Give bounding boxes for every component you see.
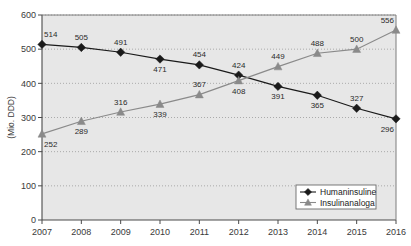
data-label: 424 xyxy=(232,61,246,70)
data-label: 408 xyxy=(232,87,246,96)
x-tick-label: 2010 xyxy=(150,227,170,237)
y-tick-label: 300 xyxy=(21,113,36,123)
chart-legend[interactable]: HumaninsulineInsulinanaloga xyxy=(296,185,376,209)
line-chart: 0100200300400500600 20072008200920102011… xyxy=(0,0,411,246)
y-tick-label: 500 xyxy=(21,44,36,54)
x-tick-label: 2012 xyxy=(229,227,249,237)
data-label: 252 xyxy=(44,140,58,149)
x-tick-label: 2008 xyxy=(71,227,91,237)
x-tick-label: 2007 xyxy=(32,227,52,237)
data-label: 491 xyxy=(114,38,128,47)
data-label: 505 xyxy=(75,33,89,42)
data-label: 339 xyxy=(153,110,167,119)
legend-label-humaninsuline[interactable]: Humaninsuline xyxy=(320,187,376,197)
y-axis-title-text: (Mio. DDD) xyxy=(6,96,16,139)
data-label: 514 xyxy=(44,30,58,39)
data-label: 296 xyxy=(381,125,395,134)
data-label: 367 xyxy=(193,80,207,89)
y-tick-label: 400 xyxy=(21,79,36,89)
x-tick-label: 2009 xyxy=(111,227,131,237)
data-label: 471 xyxy=(153,65,167,74)
x-tick-label: 2011 xyxy=(190,227,209,237)
x-axis-tick-labels: 2007200820092010201120122013201420152016 xyxy=(32,220,406,237)
data-label: 500 xyxy=(350,35,364,44)
data-label: 327 xyxy=(350,94,364,103)
data-label: 289 xyxy=(75,127,89,136)
data-label: 488 xyxy=(311,39,325,48)
data-label: 365 xyxy=(311,101,325,110)
x-tick-label: 2014 xyxy=(307,227,327,237)
y-tick-label: 600 xyxy=(21,10,36,20)
legend-label-insulinanaloga[interactable]: Insulinanaloga xyxy=(320,198,375,208)
y-tick-label: 100 xyxy=(21,181,36,191)
data-label: 454 xyxy=(193,50,207,59)
data-label: 316 xyxy=(114,98,128,107)
x-tick-label: 2015 xyxy=(347,227,367,237)
y-tick-label: 0 xyxy=(31,215,36,225)
y-axis-tick-labels: 0100200300400500600 xyxy=(21,10,42,225)
data-label: 556 xyxy=(381,16,395,25)
data-label: 449 xyxy=(271,52,285,61)
chart-container: 0100200300400500600 20072008200920102011… xyxy=(0,0,411,246)
data-label: 391 xyxy=(271,92,285,101)
y-axis-title: (Mio. DDD) xyxy=(6,96,16,139)
y-tick-label: 200 xyxy=(21,147,36,157)
x-tick-label: 2016 xyxy=(386,227,406,237)
x-tick-label: 2013 xyxy=(268,227,288,237)
